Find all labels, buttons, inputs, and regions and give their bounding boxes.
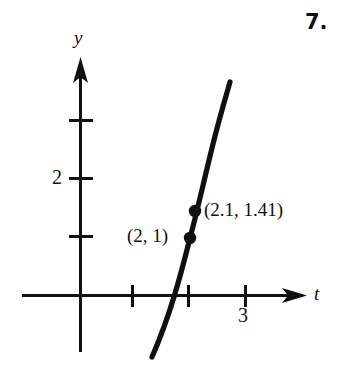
figure-panel: y t 2 3 (2, 1) (2.1, 1.41) [0, 0, 347, 389]
data-point-2-1 [184, 232, 196, 244]
data-point-2point1-1point41 [189, 205, 201, 217]
point-label-2point1-1point41: (2.1, 1.41) [204, 200, 283, 219]
y-tick-label-2: 2 [52, 167, 62, 187]
y-axis-label: y [74, 28, 82, 47]
graph-svg [0, 0, 347, 389]
x-tick-label-3: 3 [238, 305, 248, 325]
t-axis-label: t [314, 284, 319, 303]
problem-number: 7. [305, 12, 328, 33]
point-label-2-1: (2, 1) [127, 226, 168, 245]
